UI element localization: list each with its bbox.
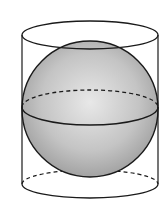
cylinder-bottom-front-arc: [22, 184, 158, 198]
sphere: [22, 41, 158, 177]
sphere-in-cylinder-diagram: [0, 0, 166, 203]
